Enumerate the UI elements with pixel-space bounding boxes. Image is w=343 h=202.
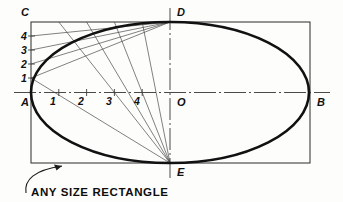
left-division-3: 3 <box>21 44 27 56</box>
axis-division-1: 1 <box>50 95 56 107</box>
label-b: B <box>317 96 325 108</box>
left-division-1: 1 <box>21 72 27 84</box>
label-a: A <box>20 96 29 108</box>
label-o: O <box>177 96 186 108</box>
axis-division-4: 4 <box>133 95 140 107</box>
axis-division-2: 2 <box>77 95 84 107</box>
ray-d-4 <box>31 22 170 36</box>
diagram-canvas: C D A O B E 4 3 2 1 1 2 3 4 ANY SIZE REC… <box>0 0 343 202</box>
ellipse-construction-figure: C D A O B E 4 3 2 1 1 2 3 4 ANY SIZE REC… <box>0 0 343 202</box>
figure-caption: ANY SIZE RECTANGLE <box>31 186 169 198</box>
ray-e-a <box>31 78 170 163</box>
left-division-2: 2 <box>20 58 27 70</box>
left-division-4: 4 <box>20 30 27 42</box>
label-c: C <box>21 6 30 18</box>
axis-division-3: 3 <box>106 95 112 107</box>
label-d: D <box>177 6 185 18</box>
label-e: E <box>177 166 185 178</box>
